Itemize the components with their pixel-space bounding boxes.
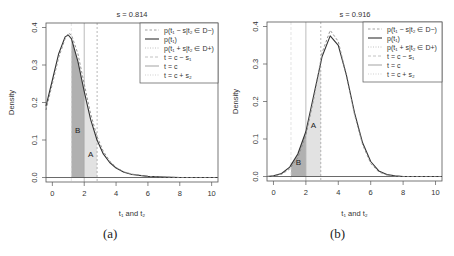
y-tick-label: 0.3 [251,59,260,69]
y-tick-label: 0.2 [251,96,260,106]
y-tick-label: 0.1 [30,135,39,145]
legend-entry-label: p(t₁ − s|t₂ ∈ D−) [164,27,214,35]
legend: p(t₁ − s|t₂ ∈ D−)p(t₁)p(t₁ + s|t₂ ∈ D+)t… [140,23,218,83]
legend-entry-label: t = c + s₂ [387,71,415,78]
x-tick-label: 2 [82,189,86,198]
x-axis-label: t₁ and t₂ [341,209,367,218]
y-tick-label: 0.0 [251,171,260,181]
region-label-a: A [311,121,317,130]
legend-entry-label: t = c [387,62,401,69]
x-tick-label: 0 [50,189,54,198]
panel-a-plot: BA02468100.00.10.20.30.4s = 0.814t₁ and … [7,10,218,218]
x-tick-label: 4 [336,188,340,197]
y-tick-label: 0.0 [30,172,39,182]
legend: p(t₁ − s|t₂ ∈ D−)p(t₁)p(t₁ + s|t₂ ∈ D+)t… [363,22,442,82]
y-tick-label: 0.3 [30,60,39,70]
legend-entry-label: p(t₁ + s|t₂ ∈ D+) [387,44,437,52]
x-tick-label: 6 [369,188,373,197]
x-tick-label: 0 [271,188,275,197]
x-tick-label: 8 [401,188,405,197]
chart-title: s = 0.916 [339,10,370,19]
legend-entry-label: p(t₁ − s|t₂ ∈ D−) [387,26,437,34]
x-tick-label: 6 [146,189,150,198]
y-axis-label: Density [231,89,240,114]
y-axis-label: Density [7,90,16,115]
x-tick-label: 8 [178,189,182,198]
y-tick-label: 0.4 [30,22,39,32]
legend-entry-label: p(t₁ + s|t₂ ∈ D+) [164,45,214,53]
figure: BA02468100.00.10.20.30.4s = 0.814t₁ and … [0,0,454,256]
caption-a: (a) [103,226,117,242]
panel-b-plot: BA02468100.00.10.20.30.4s = 0.916t₁ and … [231,10,442,218]
x-tick-label: 10 [207,189,215,198]
region-label-a: A [88,150,94,159]
legend-entry-label: t = c + s₂ [164,72,192,79]
x-tick-label: 2 [304,188,308,197]
x-tick-label: 10 [431,188,439,197]
caption-b: (b) [330,226,345,242]
region-label-b: B [75,126,80,135]
y-tick-label: 0.4 [251,21,260,31]
legend-entry-label: t = c − s₁ [164,54,192,61]
y-tick-label: 0.1 [251,134,260,144]
x-tick-label: 4 [114,189,118,198]
legend-entry-label: p(t₁) [387,35,400,43]
chart-title: s = 0.814 [116,10,147,19]
x-axis-label: t₁ and t₂ [119,209,145,218]
y-tick-label: 0.2 [30,97,39,107]
legend-entry-label: t = c − s₁ [387,53,415,60]
legend-entry-label: p(t₁) [164,36,177,44]
legend-entry-label: t = c [164,63,178,70]
